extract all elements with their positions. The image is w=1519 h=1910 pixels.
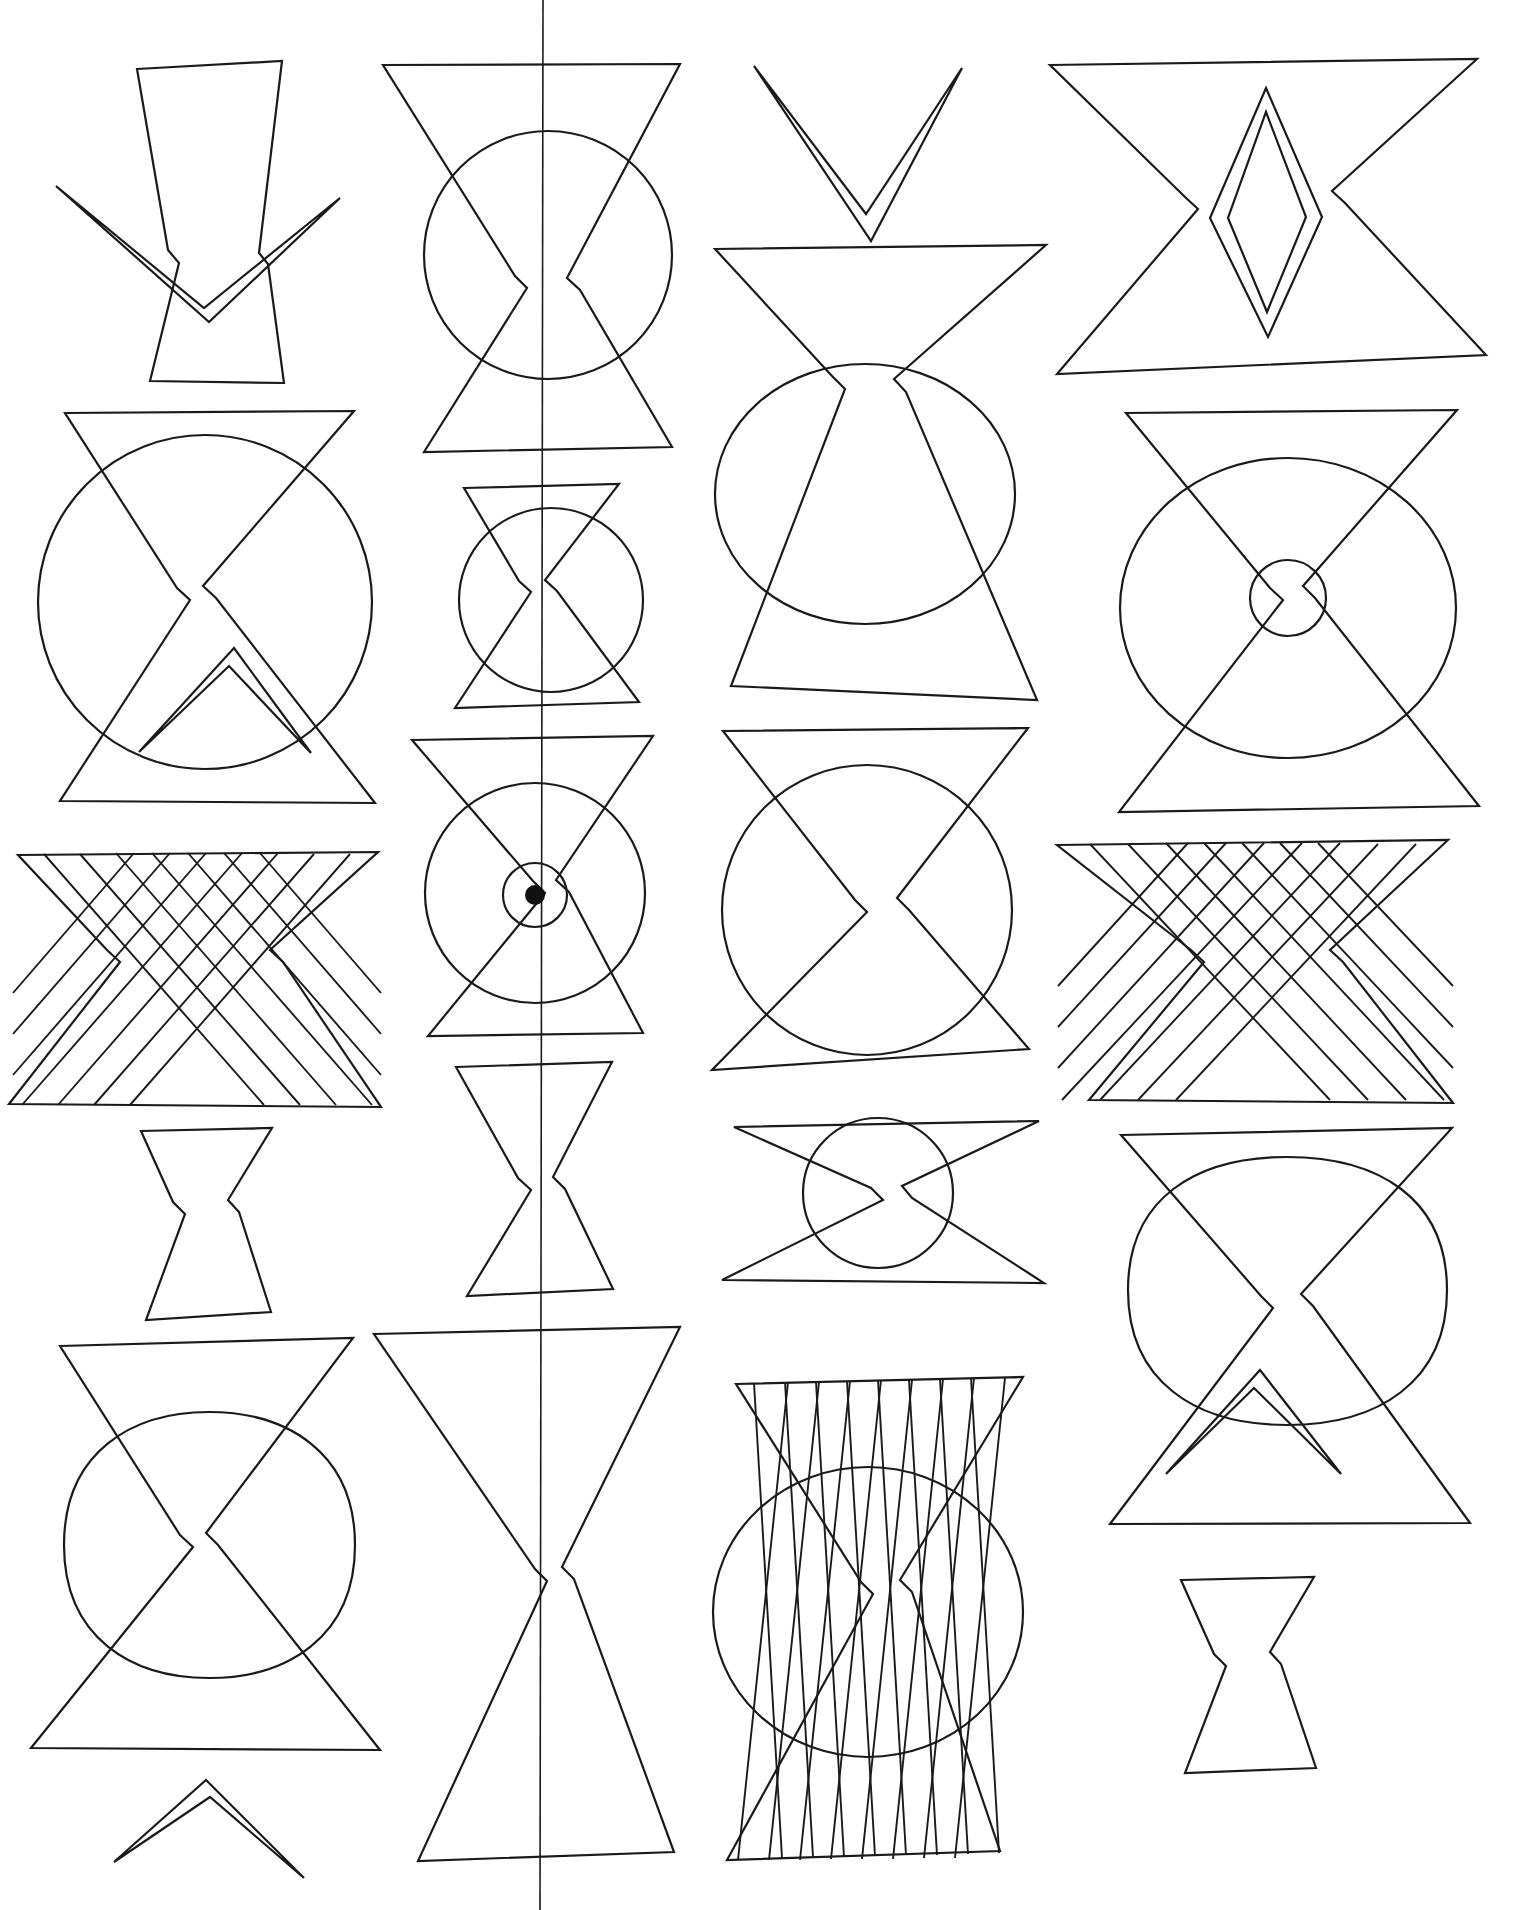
figure-plate-canvas xyxy=(0,0,1519,1910)
bullseye-center-dot xyxy=(525,885,545,905)
figure-plate-page xyxy=(0,0,1519,1910)
